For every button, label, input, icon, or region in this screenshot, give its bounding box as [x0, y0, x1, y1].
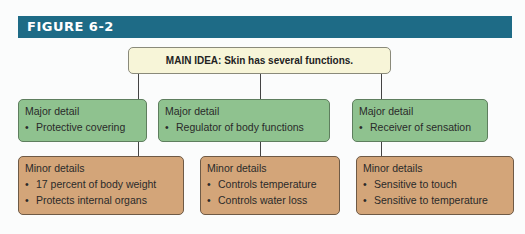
minor-details-title: Minor details [207, 162, 267, 174]
minor-detail-item: • Sensitive to temperature [363, 194, 488, 206]
bullet-icon: • [25, 121, 36, 133]
minor-detail-item: • 17 percent of body weight [25, 178, 156, 190]
major-detail-title: Major detail [25, 105, 79, 117]
major-detail-item-text: Regulator of body functions [176, 121, 304, 133]
bullet-icon: • [363, 194, 374, 206]
major-detail-box-1: Major detail • Protective covering [18, 99, 147, 142]
minor-details-title: Minor details [363, 162, 423, 174]
bullet-icon: • [165, 121, 176, 133]
minor-detail-item-text: Controls water loss [218, 194, 307, 206]
bullet-icon: • [25, 194, 36, 206]
major-detail-item-text: Receiver of sensation [370, 121, 471, 133]
major-detail-box-2: Major detail • Regulator of body functio… [158, 99, 330, 142]
minor-details-box-1: Minor details • 17 percent of body weigh… [18, 156, 184, 215]
connector-major-minor-2 [260, 142, 261, 156]
minor-detail-item: • Controls water loss [207, 194, 307, 206]
minor-details-title: Minor details [25, 162, 85, 174]
bullet-icon: • [363, 178, 374, 190]
minor-details-box-2: Minor details • Controls temperature • C… [200, 156, 340, 215]
major-detail-item: • Regulator of body functions [165, 121, 304, 133]
connector-major-minor-1 [138, 142, 139, 156]
major-detail-title: Major detail [165, 105, 219, 117]
minor-detail-item-text: Sensitive to touch [374, 178, 457, 190]
major-detail-title: Major detail [359, 105, 413, 117]
minor-detail-item: • Controls temperature [207, 178, 317, 190]
minor-details-box-3: Minor details • Sensitive to touch • Sen… [356, 156, 514, 215]
minor-detail-item: • Sensitive to touch [363, 178, 457, 190]
major-detail-item-text: Protective covering [36, 121, 125, 133]
bullet-icon: • [359, 121, 370, 133]
bullet-icon: • [207, 178, 218, 190]
minor-detail-item-text: 17 percent of body weight [36, 178, 156, 190]
major-detail-box-3: Major detail • Receiver of sensation [352, 99, 488, 142]
main-idea-box: MAIN IDEA: Skin has several functions. [128, 47, 391, 74]
figure-header-bar: FIGURE 6-2 [18, 16, 512, 38]
minor-detail-item-text: Controls temperature [218, 178, 317, 190]
connector-main-col3 [381, 74, 382, 99]
major-detail-item: • Receiver of sensation [359, 121, 471, 133]
bullet-icon: • [207, 194, 218, 206]
connector-main-col1 [138, 74, 139, 99]
bullet-icon: • [25, 178, 36, 190]
connector-major-minor-3 [381, 142, 382, 156]
minor-detail-item-text: Sensitive to temperature [374, 194, 488, 206]
connector-main-col2 [260, 74, 261, 99]
figure-label: FIGURE 6-2 [27, 19, 114, 34]
major-detail-item: • Protective covering [25, 121, 125, 133]
minor-detail-item-text: Protects internal organs [36, 194, 147, 206]
minor-detail-item: • Protects internal organs [25, 194, 147, 206]
main-idea-text: MAIN IDEA: Skin has several functions. [166, 55, 353, 66]
